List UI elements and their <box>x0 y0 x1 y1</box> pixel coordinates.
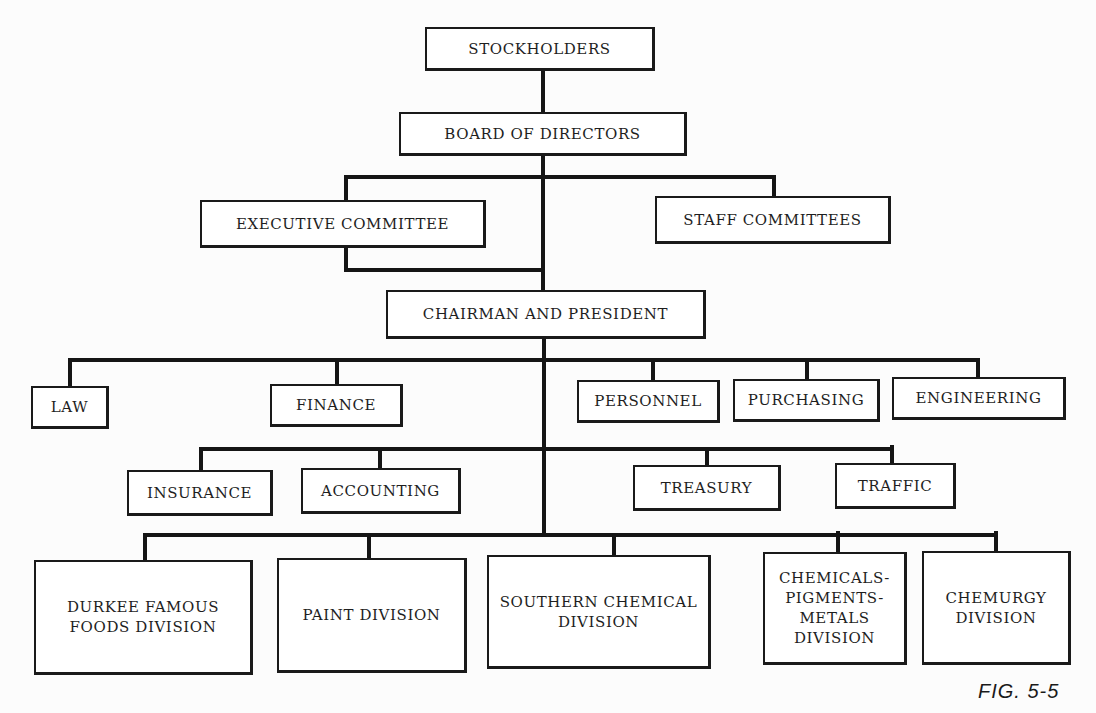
node-engineering: ENGINEERING <box>892 377 1066 420</box>
node-chemicals-pigments-metals-division: CHEMICALS- PIGMENTS- METALS DIVISION <box>763 552 907 665</box>
connector-line <box>836 531 840 553</box>
connector-line <box>68 358 72 387</box>
connector-line <box>541 70 545 113</box>
connector-line <box>344 447 894 451</box>
connector-line <box>705 447 709 466</box>
connector-line <box>335 358 339 385</box>
connector-line <box>651 358 655 381</box>
connector-line <box>612 533 616 556</box>
node-board: BOARD OF DIRECTORS <box>399 112 687 156</box>
node-chemurgy-division: CHEMURGY DIVISION <box>922 551 1071 665</box>
connector-line <box>344 175 348 201</box>
connector-line <box>994 531 998 552</box>
connector-line <box>976 358 980 378</box>
node-accounting: ACCOUNTING <box>301 468 461 514</box>
node-purchasing: PURCHASING <box>733 379 880 422</box>
node-paint-division: PAINT DIVISION <box>277 558 467 673</box>
node-traffic: TRAFFIC <box>835 463 956 509</box>
node-insurance: INSURANCE <box>127 470 273 516</box>
connector-line <box>143 533 998 537</box>
connector-line <box>772 175 776 197</box>
node-durkee-division: DURKEE FAMOUS FOODS DIVISION <box>34 560 253 675</box>
connector-line <box>199 447 351 451</box>
node-staff-committees: STAFF COMMITTEES <box>655 196 891 244</box>
node-chairman-president: CHAIRMAN AND PRESIDENT <box>386 290 706 339</box>
connector-line <box>344 175 776 179</box>
figure-label: FIG. 5-5 <box>978 680 1059 703</box>
node-law: LAW <box>31 386 109 429</box>
connector-line <box>542 338 546 536</box>
connector-line <box>367 533 371 559</box>
connector-line <box>890 445 894 464</box>
node-southern-chemical-division: SOUTHERN CHEMICAL DIVISION <box>487 555 711 669</box>
node-stockholders: STOCKHOLDERS <box>425 27 655 71</box>
connector-line <box>344 268 544 272</box>
node-personnel: PERSONNEL <box>577 380 720 423</box>
node-treasury: TREASURY <box>633 465 781 511</box>
connector-line <box>805 358 809 380</box>
connector-line <box>143 533 147 561</box>
connector-line <box>68 358 980 362</box>
node-finance: FINANCE <box>270 384 403 427</box>
node-executive-committee: EXECUTIVE COMMITTEE <box>200 200 486 248</box>
org-chart: STOCKHOLDERSBOARD OF DIRECTORSEXECUTIVE … <box>0 0 1096 713</box>
connector-line <box>199 447 203 471</box>
